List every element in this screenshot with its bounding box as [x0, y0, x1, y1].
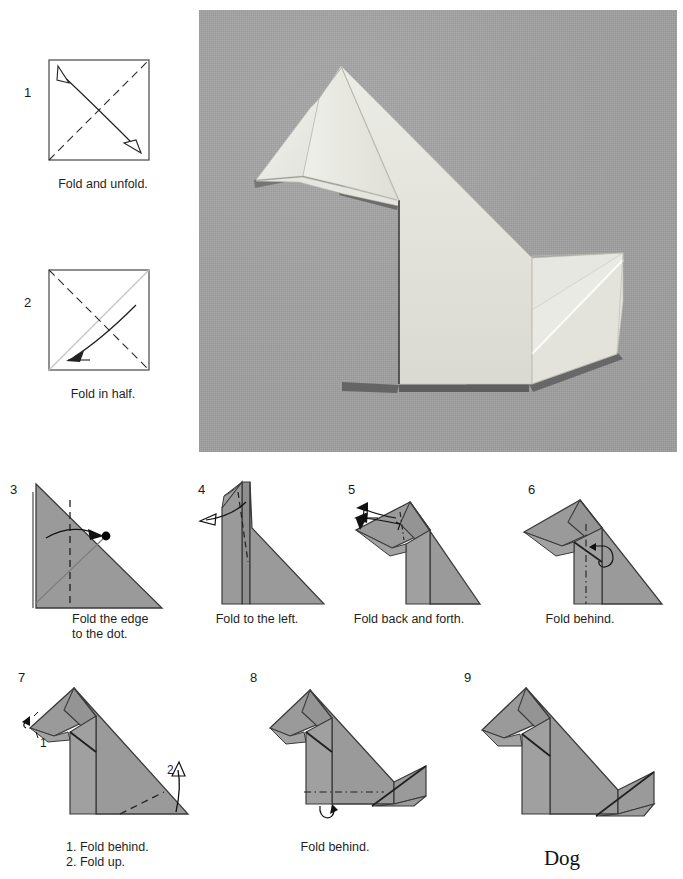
step-2: 2 Fold in half. — [24, 265, 184, 440]
step-6-diagram — [504, 478, 669, 613]
final-model-label: Dog — [472, 846, 652, 871]
step-9-diagram — [468, 674, 678, 844]
step-4-diagram — [200, 478, 330, 613]
step-5-diagram — [334, 478, 484, 613]
step-6-caption: Fold behind. — [500, 612, 660, 627]
step-1-caption: Fold and unfold. — [28, 177, 178, 192]
step-5: 5 Fold back and forth. — [330, 478, 490, 648]
step-8-diagram — [254, 674, 454, 834]
photo-content — [199, 10, 677, 452]
step-3-number: 3 — [10, 482, 17, 497]
step-1-number: 1 — [24, 85, 31, 100]
step-6: 6 Fold behind. — [500, 478, 675, 648]
step-9: 9 Dog — [462, 668, 683, 879]
step-2-number: 2 — [24, 295, 31, 310]
step-5-caption: Fold back and forth. — [324, 612, 494, 627]
step-3-diagram — [24, 478, 174, 613]
step-8-caption: Fold behind. — [240, 840, 430, 855]
step-1: 1 Fold and unfold. — [24, 55, 184, 230]
step-7-sublabel-1: 1 — [40, 736, 47, 750]
step-2-diagram — [44, 265, 154, 380]
step-3: 3 Fold the edge to the dot. — [10, 478, 190, 648]
step-7-caption: 1. Fold behind. 2. Fold up. — [66, 840, 226, 870]
step-7-diagram — [8, 674, 218, 834]
step-1-diagram — [44, 55, 154, 170]
step-7-sublabel-2: 2 — [167, 763, 174, 777]
step-4: 4 Fold to the left. — [192, 478, 337, 648]
step-4-caption: Fold to the left. — [182, 612, 332, 627]
finished-dog-photograph — [199, 10, 677, 452]
step-8: 8 Fold behind. — [248, 668, 458, 878]
step-2-caption: Fold in half. — [28, 387, 178, 402]
step-7: 7 1 2 1. Fold behind. 2. Fold up. — [4, 668, 224, 878]
origami-instruction-page: Dog — [0, 0, 683, 879]
